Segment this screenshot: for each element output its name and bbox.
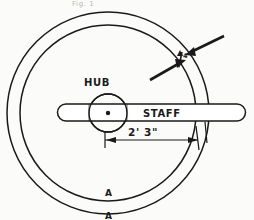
figure-caption: Fig. 1 (72, 0, 94, 8)
technical-drawing-figure: 4" 2' 3" HUB STAFF A A Fig. 1 (0, 0, 254, 220)
hub-center-dot (106, 111, 110, 115)
section-mark-upper: A (105, 188, 113, 198)
dimension-extension-right-a (196, 126, 199, 150)
rim-thickness-label: 4" (183, 52, 192, 60)
staff-label: STAFF (143, 108, 181, 119)
wheel-hub-staff-diagram: 4" 2' 3" HUB STAFF A A Fig. 1 (0, 0, 254, 220)
dimension-label: 2' 3" (128, 126, 158, 138)
section-mark-lower: A (105, 211, 113, 220)
dimension-arrowhead-left (106, 137, 116, 143)
rim-leader-line-upper (193, 36, 224, 51)
hub-label: HUB (84, 77, 110, 88)
rim-leader-line-lower (150, 64, 178, 80)
